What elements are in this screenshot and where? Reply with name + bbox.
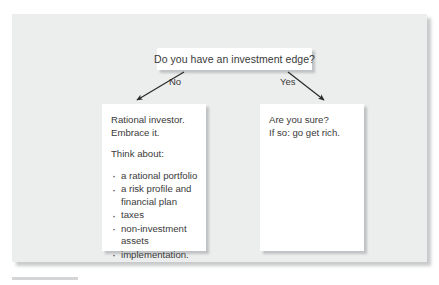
- list-item: implementation.: [111, 249, 198, 261]
- figure-panel: Do you have an investment edge? No Yes R…: [12, 14, 427, 262]
- outcome-right-content: Are you sure? If so: go get rich.: [260, 104, 364, 139]
- branch-label-yes: Yes: [280, 76, 296, 87]
- outcome-box-no: Rational investor. Embrace it. Think abo…: [102, 104, 206, 251]
- list-item: taxes: [111, 209, 198, 221]
- caption-rule: [12, 277, 78, 280]
- outcome-left-bullet-list: a rational portfolio a risk profile and …: [111, 170, 198, 261]
- outcome-left-prompt: Think about:: [111, 148, 198, 161]
- outcome-box-yes: Are you sure? If so: go get rich.: [260, 104, 364, 251]
- list-item: non-investment assets: [111, 223, 198, 248]
- list-item: a risk profile and financial plan: [111, 183, 198, 208]
- branch-label-no: No: [169, 76, 181, 87]
- outcome-left-content: Rational investor. Embrace it. Think abo…: [102, 104, 206, 261]
- outcome-right-lead-line-1: Are you sure?: [269, 114, 356, 127]
- outcome-right-lead-line-2: If so: go get rich.: [269, 127, 356, 140]
- decision-box: Do you have an investment edge?: [157, 48, 312, 70]
- list-item: a rational portfolio: [111, 170, 198, 182]
- outcome-left-lead-line-1: Rational investor.: [111, 114, 198, 127]
- outcome-left-lead-line-2: Embrace it.: [111, 127, 198, 140]
- decision-question-text: Do you have an investment edge?: [154, 53, 315, 65]
